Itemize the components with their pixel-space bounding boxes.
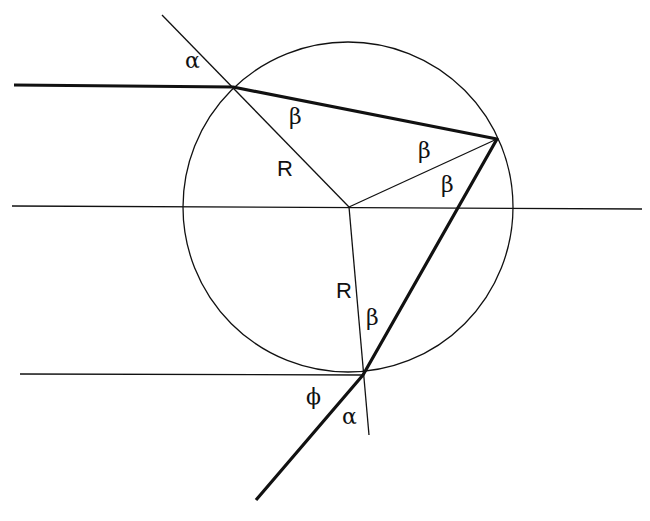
label-alpha-bottom: α bbox=[342, 406, 357, 428]
raindrop-diagram: α β R β β R β ϕ α bbox=[0, 0, 650, 521]
label-beta-entry: β bbox=[289, 106, 302, 128]
label-alpha-top: α bbox=[185, 50, 200, 72]
label-beta-exit: β bbox=[366, 307, 379, 329]
horizontal-axis bbox=[12, 206, 642, 209]
label-phi: ϕ bbox=[306, 386, 321, 408]
label-radius-bottom: R bbox=[336, 280, 352, 302]
label-beta-reflect-lower: β bbox=[441, 174, 454, 196]
exit-reference-line bbox=[20, 374, 363, 375]
label-beta-reflect-upper: β bbox=[418, 140, 431, 162]
diagram-lines bbox=[0, 0, 650, 521]
label-radius-top: R bbox=[277, 158, 293, 180]
